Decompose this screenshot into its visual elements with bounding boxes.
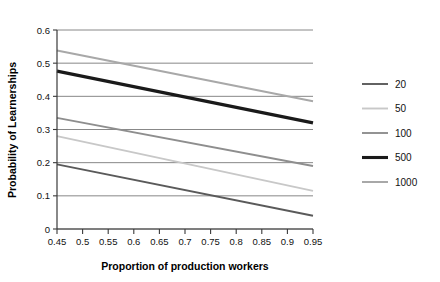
y-tick-label: 0.1 <box>37 190 50 201</box>
x-tick-label: 0.5 <box>76 236 89 247</box>
legend-label-20: 20 <box>395 79 407 90</box>
x-tick-label: 0.65 <box>150 236 169 247</box>
x-tick-label: 0.9 <box>281 236 294 247</box>
y-tick-label: 0.5 <box>37 58 50 69</box>
y-axis-title: Probability of Learnerships <box>6 62 18 198</box>
x-tick-label: 0.75 <box>201 236 220 247</box>
y-tick-label: 0.3 <box>37 124 50 135</box>
line-chart: 00.10.20.30.40.50.6 0.450.50.550.60.650.… <box>0 0 440 282</box>
x-tick-label: 0.45 <box>48 236 67 247</box>
x-tick-label: 0.95 <box>304 236 323 247</box>
y-tick-label: 0.6 <box>37 25 50 36</box>
x-tick-label: 0.85 <box>253 236 272 247</box>
chart-container: 00.10.20.30.40.50.6 0.450.50.550.60.650.… <box>0 0 440 282</box>
y-tick-label: 0.4 <box>37 91 50 102</box>
x-axis-title: Proportion of production workers <box>101 260 269 272</box>
legend-label-100: 100 <box>395 128 412 139</box>
legend-label-1000: 1000 <box>395 177 418 188</box>
y-tick-label: 0 <box>45 224 50 235</box>
legend-label-50: 50 <box>395 103 407 114</box>
y-tick-label: 0.2 <box>37 157 50 168</box>
x-tick-label: 0.6 <box>127 236 140 247</box>
x-tick-label: 0.55 <box>99 236 118 247</box>
legend-label-500: 500 <box>395 152 412 163</box>
x-tick-label: 0.8 <box>230 236 243 247</box>
x-tick-label: 0.7 <box>178 236 191 247</box>
